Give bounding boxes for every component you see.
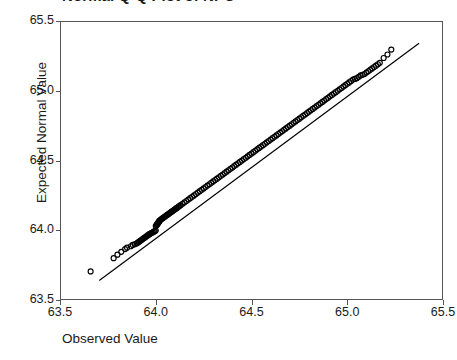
reference-line [99,43,419,280]
y-tick-mark [56,91,61,92]
chart-title: Normal Q-Q Plot of NPC [62,0,235,4]
y-tick-mark [56,21,61,22]
x-tick-mark [156,300,157,305]
y-axis-title: Expected Normal Value [34,13,49,253]
x-tick-mark [347,300,348,305]
normal-qq-plot: Normal Q-Q Plot of NPC 65.565.064.564.06… [0,0,457,360]
data-point [88,269,93,274]
x-tick-mark [60,300,61,305]
x-tick-label: 63.5 [30,305,90,319]
x-tick-mark [252,300,253,305]
x-tick-label: 65.5 [413,305,457,319]
y-tick-mark [56,161,61,162]
data-point [385,52,390,57]
x-tick-label: 65.0 [317,305,377,319]
x-tick-label: 64.5 [222,305,282,319]
data-point [389,47,394,52]
y-tick-label: 63.5 [8,293,54,305]
plot-data-layer [60,21,443,300]
x-tick-label: 64.0 [126,305,186,319]
x-axis-title: Observed Value [62,331,158,346]
x-tick-mark [443,300,444,305]
y-tick-mark [56,230,61,231]
scatter-series-npc [88,47,394,274]
